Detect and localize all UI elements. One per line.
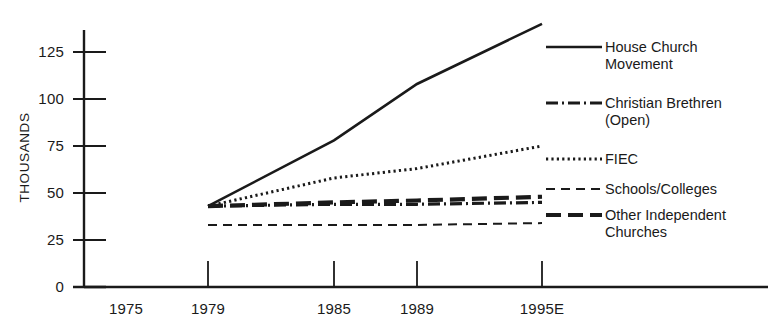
legend-swatch-dashed-thick xyxy=(545,206,603,224)
legend-swatch-dotted xyxy=(545,150,603,168)
legend-item[interactable]: FIEC xyxy=(545,150,638,168)
y-tick-label: 75 xyxy=(18,137,64,154)
y-tick-label: 50 xyxy=(18,184,64,201)
x-tick-label: 1989 xyxy=(377,300,457,317)
legend-item[interactable]: House Church Movement xyxy=(545,38,698,73)
y-tick-label: 100 xyxy=(18,90,64,107)
legend-item[interactable]: Christian Brethren (Open) xyxy=(545,94,722,129)
y-axis-ticks xyxy=(73,52,106,287)
legend-swatch-dashed-thin xyxy=(545,180,603,198)
legend-swatch-solid xyxy=(545,38,603,56)
x-axis-ticks xyxy=(208,261,542,288)
data-series-line xyxy=(208,146,542,206)
legend-label: House Church Movement xyxy=(605,39,698,73)
x-tick-label: 1985 xyxy=(294,300,374,317)
legend-swatch-dash-dot xyxy=(545,94,603,112)
x-tick-label: 1979 xyxy=(168,300,248,317)
data-series-line xyxy=(208,223,542,225)
legend-item[interactable]: Schools/Colleges xyxy=(545,180,717,198)
x-tick-label: 1995E xyxy=(502,300,582,317)
y-tick-label: 25 xyxy=(18,231,64,248)
y-tick-label: 0 xyxy=(18,278,64,295)
legend-label: Other Independent Churches xyxy=(605,207,726,241)
legend-label: FIEC xyxy=(605,151,638,168)
data-series-group xyxy=(208,24,542,225)
data-series-line xyxy=(208,24,542,206)
y-tick-label: 125 xyxy=(18,43,64,60)
line-chart: THOUSANDS 0255075100125 1975197919851989… xyxy=(0,0,770,329)
data-series-line xyxy=(208,197,542,206)
legend-label: Christian Brethren (Open) xyxy=(605,95,722,129)
x-tick-label: 1975 xyxy=(86,300,166,317)
legend-label: Schools/Colleges xyxy=(605,181,717,198)
legend-item[interactable]: Other Independent Churches xyxy=(545,206,726,241)
